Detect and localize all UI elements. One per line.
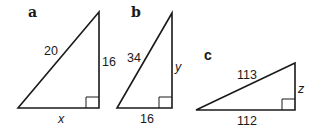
triangle-b-horizontal-leg-label: 16 — [140, 112, 154, 126]
triangle-c-right-angle-marker — [282, 99, 295, 110]
triangle-c: c 113 z 112 — [196, 47, 305, 128]
triangle-a: a 20 16 x — [18, 4, 116, 126]
triangle-c-hypotenuse-label: 113 — [237, 68, 257, 82]
triangle-a-label: a — [28, 4, 37, 20]
triangle-c-vertical-leg-label: z — [297, 82, 305, 96]
triangle-c-label: c — [204, 47, 212, 63]
triangle-c-horizontal-leg-label: 112 — [237, 114, 257, 128]
triangle-b-outline — [117, 13, 172, 108]
triangle-a-hypotenuse-label: 20 — [44, 44, 58, 58]
triangle-a-outline — [18, 12, 99, 108]
triangle-b-hypotenuse-label: 34 — [127, 51, 141, 65]
triangle-a-right-angle-marker — [86, 97, 99, 108]
triangle-a-horizontal-leg-label: x — [57, 112, 65, 126]
right-triangles-diagram: a 20 16 x b 34 y 16 c 113 z 112 — [0, 0, 319, 132]
triangle-b: b 34 y 16 — [117, 4, 182, 126]
triangle-b-right-angle-marker — [159, 97, 172, 108]
triangle-b-label: b — [131, 4, 141, 20]
triangle-b-vertical-leg-label: y — [174, 60, 182, 74]
triangle-a-vertical-leg-label: 16 — [102, 55, 116, 69]
